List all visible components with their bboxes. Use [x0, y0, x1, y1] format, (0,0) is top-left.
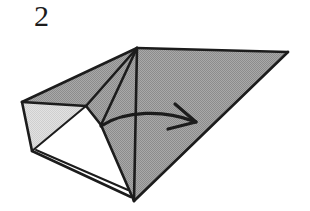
- origami-figure: [0, 0, 310, 211]
- origami-diagram: 2: [0, 0, 310, 211]
- paper-faces: [22, 48, 288, 201]
